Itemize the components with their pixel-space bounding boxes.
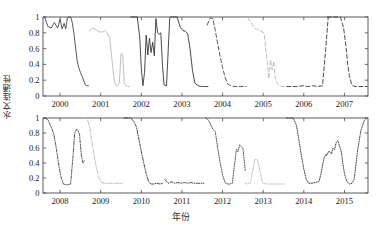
x-axis-label: 年份 (172, 210, 190, 223)
chart-canvas: 00.20.40.60.8120002001200220032004200520… (0, 0, 378, 227)
y-tick-label: 0 (35, 92, 39, 101)
x-tick-label: 2004 (214, 99, 232, 109)
series-line (206, 118, 246, 184)
series-line (207, 18, 246, 87)
x-tick-label: 2008 (51, 196, 68, 206)
x-tick-label: 2007 (336, 99, 354, 109)
series-line (131, 17, 170, 86)
series-line (245, 159, 284, 184)
y-tick-label: 1 (35, 114, 39, 123)
x-tick-label: 2014 (295, 196, 313, 206)
series-line (171, 17, 208, 87)
x-tick-label: 2001 (92, 99, 109, 109)
bottom-panel: 00.20.40.60.8120082009201020112012201320… (29, 114, 368, 206)
plot-frame (43, 118, 368, 193)
series-line (124, 118, 163, 184)
series-line (84, 118, 122, 183)
series-line (287, 118, 327, 183)
y-tick-label: 0.4 (29, 60, 40, 69)
x-tick-label: 2006 (295, 99, 313, 109)
x-tick-label: 2012 (214, 196, 231, 206)
x-tick-label: 2002 (133, 99, 150, 109)
y-tick-label: 0.4 (29, 159, 40, 168)
x-tick-label: 2011 (174, 196, 191, 206)
y-tick-label: 0 (35, 189, 39, 198)
series-line (45, 118, 85, 185)
y-tick-label: 0.6 (29, 45, 39, 54)
x-tick-label: 2010 (133, 196, 150, 206)
x-tick-label: 2015 (336, 196, 353, 206)
y-tick-label: 0.8 (29, 29, 39, 38)
series-line (327, 17, 367, 87)
series-line (45, 17, 89, 86)
x-tick-label: 2013 (255, 196, 272, 206)
series-line (327, 118, 367, 184)
x-tick-label: 2005 (255, 99, 272, 109)
y-tick-label: 0.8 (29, 129, 39, 138)
y-axis-label: 水文连通性 (2, 74, 14, 119)
top-panel: 00.20.40.60.8120002001200220032004200520… (29, 13, 368, 109)
x-tick-label: 2000 (51, 99, 68, 109)
series-line (287, 18, 328, 87)
x-tick-label: 2009 (92, 196, 109, 206)
series-line (89, 28, 129, 86)
hydrological-connectivity-chart: 水文连通性 年份 00.20.40.60.8120002001200220032… (0, 0, 378, 227)
y-tick-label: 0.2 (29, 174, 39, 183)
series-line (165, 180, 204, 184)
x-tick-label: 2003 (173, 99, 190, 109)
series-line (248, 18, 286, 87)
y-tick-label: 0.6 (29, 144, 39, 153)
y-tick-label: 0.2 (29, 76, 39, 85)
y-tick-label: 1 (35, 13, 39, 22)
